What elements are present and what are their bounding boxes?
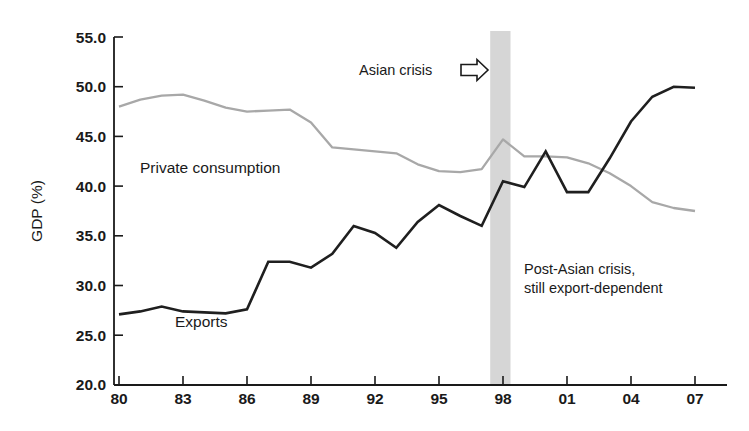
series-label-exports: Exports (175, 313, 228, 330)
x-tick-label-86: 86 (238, 390, 256, 407)
x-tick-marks (119, 376, 695, 385)
right-arrow-icon (461, 60, 488, 81)
y-tick-labels: 55.0 50.0 45.0 40.0 35.0 30.0 25.0 20.0 (76, 29, 106, 394)
y-axis-title: GDP (%) (28, 180, 45, 242)
x-tick-label-01: 01 (558, 390, 576, 407)
y-tick-label-40: 40.0 (76, 178, 106, 195)
asian-crisis-label: Asian crisis (359, 62, 432, 78)
post-crisis-label-line1: Post-Asian crisis, (524, 261, 635, 277)
x-tick-label-83: 83 (174, 390, 192, 407)
y-tick-marks (114, 37, 123, 335)
series-line-private-consumption (119, 95, 695, 211)
line-chart-canvas: 55.0 50.0 45.0 40.0 35.0 30.0 25.0 20.0 … (0, 0, 749, 431)
y-tick-label-20: 20.0 (76, 376, 106, 393)
asian-crisis-band (490, 31, 510, 385)
x-tick-label-80: 80 (110, 390, 127, 407)
post-crisis-label-line2: still export-dependent (524, 280, 663, 296)
series-label-private-consumption: Private consumption (140, 159, 280, 176)
y-tick-label-45: 45.0 (76, 128, 106, 145)
x-tick-label-92: 92 (366, 390, 383, 407)
series-inline-labels: Private consumption Exports (140, 159, 280, 330)
x-tick-label-95: 95 (430, 390, 448, 407)
y-tick-label-25: 25.0 (76, 327, 106, 344)
x-tick-label-98: 98 (494, 390, 512, 407)
y-tick-label-35: 35.0 (76, 227, 106, 244)
annotation-asian-crisis: Asian crisis (359, 60, 488, 81)
annotation-post-crisis: Post-Asian crisis, still export-dependen… (524, 261, 663, 296)
y-tick-label-50: 50.0 (76, 78, 106, 95)
y-tick-label-55: 55.0 (76, 29, 106, 46)
x-tick-label-04: 04 (622, 390, 640, 407)
x-tick-label-89: 89 (302, 390, 320, 407)
shaded-regions-group (490, 31, 510, 385)
axes-group (114, 37, 727, 385)
x-tick-labels: 80 83 86 89 92 95 98 01 04 07 (110, 390, 703, 407)
y-tick-label-30: 30.0 (76, 277, 106, 294)
chart-figure: 55.0 50.0 45.0 40.0 35.0 30.0 25.0 20.0 … (0, 0, 749, 431)
x-tick-label-07: 07 (686, 390, 703, 407)
